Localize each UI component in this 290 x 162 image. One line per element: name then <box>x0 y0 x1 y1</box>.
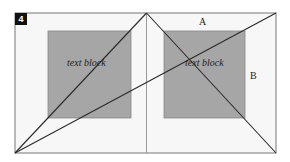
left-block-label: text block <box>67 57 106 68</box>
margin-label-b: B <box>250 70 257 81</box>
book-spread-diagram: 4 text block text block A B <box>0 0 290 162</box>
figure-number-badge: 4 <box>15 13 27 25</box>
right-text-block <box>164 31 245 118</box>
diagram-canvas <box>0 0 290 162</box>
right-block-label: text block <box>185 57 224 68</box>
margin-label-a: A <box>199 16 206 27</box>
